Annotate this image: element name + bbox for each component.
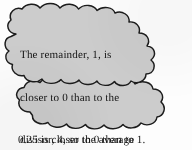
cloud-a-line-3: divisor, 4, so the average bbox=[20, 133, 134, 147]
cloud-a-line-2: closer to 0 than to the bbox=[20, 91, 134, 105]
illustration-canvas: 0.25 is closer to 0 than to 1. The remai… bbox=[0, 0, 192, 150]
cloud-a-line-1: The remainder, 1, is bbox=[20, 48, 134, 62]
remainder-explanation-cloud-text: The remainder, 1, is closer to 0 than to… bbox=[20, 20, 134, 151]
